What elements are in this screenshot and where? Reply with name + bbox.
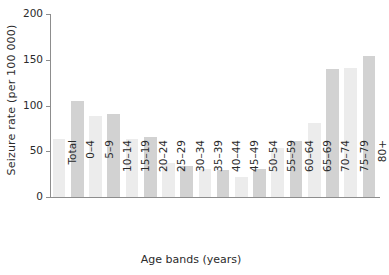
y-tick: 200	[0, 14, 50, 15]
x-tick-label: 15–19	[138, 140, 152, 200]
x-tick-label: 25–29	[174, 140, 188, 200]
y-tick: 100	[0, 106, 50, 107]
x-tick-label: 75–79	[357, 140, 371, 200]
y-tick-label: 0	[36, 190, 43, 202]
y-tick-label: 50	[30, 144, 43, 156]
x-tick-label: 10–14	[120, 140, 134, 200]
y-axis-title: Seizure rate (per 100 000)	[3, 0, 21, 200]
x-tick-label: 50–54	[266, 140, 280, 200]
x-tick-label: 65–69	[320, 140, 334, 200]
x-tick-label: 0–4	[83, 140, 97, 200]
y-tick: 150	[0, 60, 50, 61]
x-tick-label: 45–49	[247, 140, 261, 200]
y-tick-label: 150	[23, 53, 43, 65]
y-tick-label: 100	[23, 99, 43, 111]
y-tick: 0	[0, 197, 50, 198]
x-tick-label: 60–64	[302, 140, 316, 200]
x-tick-label: Total	[65, 140, 79, 200]
x-tick-label: 70–74	[338, 140, 352, 200]
y-tick: 50	[0, 151, 50, 152]
x-tick-label: 20–24	[156, 140, 170, 200]
x-tick-label: 55–59	[284, 140, 298, 200]
x-tick-label: 30–34	[193, 140, 207, 200]
y-tick-mark	[46, 197, 50, 198]
y-tick-label: 200	[23, 7, 43, 19]
x-tick-label: 80+	[375, 140, 389, 200]
x-tick-label: 35–39	[211, 140, 225, 200]
bar	[53, 139, 66, 197]
x-tick-label: 5–9	[102, 140, 116, 200]
x-tick-label: 40–44	[229, 140, 243, 200]
x-axis-title: Age bands (years)	[0, 253, 382, 266]
